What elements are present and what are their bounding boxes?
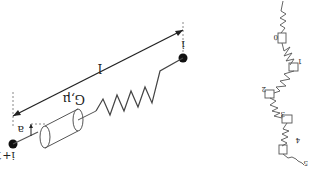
chain-spring-0 — [280, 1, 286, 33]
chain-spring-5 — [283, 154, 304, 165]
label-i: i — [181, 38, 185, 51]
chain-dashpot-0 — [278, 33, 286, 43]
label-material: G,μ — [62, 92, 85, 107]
chain-label-0: 0 — [274, 33, 278, 41]
label-i-plus-1: i+1 — [0, 149, 15, 162]
chain-spring-2 — [274, 71, 294, 93]
label-length: l — [98, 61, 102, 76]
chain-spring-4 — [281, 123, 289, 146]
chain-label-4: 4 — [295, 136, 300, 144]
chain-label-2: 2 — [262, 85, 266, 93]
chain-label-3: 3 — [281, 110, 285, 118]
arrowhead-left — [13, 110, 21, 116]
chain-label-5: 5 — [304, 159, 308, 167]
label-radius: a — [17, 123, 24, 136]
chain-dashpot-4 — [279, 145, 287, 154]
left-panel — [9, 21, 188, 149]
chain-spring-1 — [282, 43, 294, 65]
dashpot-cylinder — [40, 109, 96, 148]
rod — [13, 132, 38, 144]
chain-spring-3 — [270, 98, 282, 118]
chain-label-1: 1 — [298, 57, 302, 65]
diagram-canvas: i+1 i l a G,μ 0 1 2 3 4 5 — [0, 0, 328, 171]
spring — [96, 58, 183, 115]
